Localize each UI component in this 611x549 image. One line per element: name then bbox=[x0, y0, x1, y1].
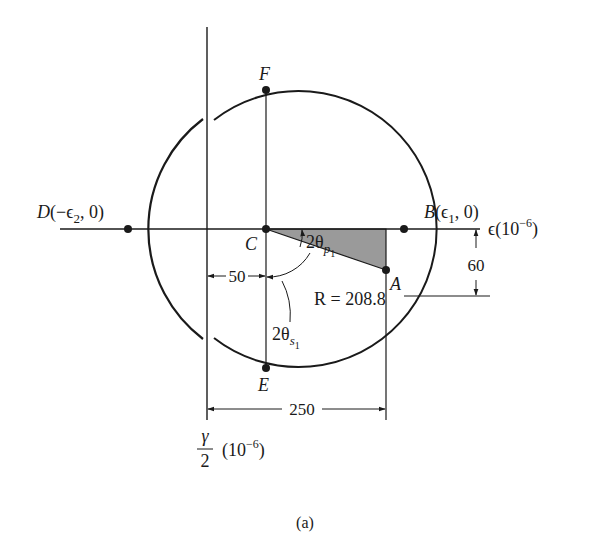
label-C: C bbox=[245, 234, 258, 254]
dim-250-label: 250 bbox=[289, 400, 315, 419]
svg-text:(10−6): (10−6) bbox=[222, 437, 265, 461]
label-A: A bbox=[389, 274, 402, 294]
point-D bbox=[124, 225, 132, 233]
point-E bbox=[262, 364, 270, 372]
epsilon-axis-label: ϵ(10−6) bbox=[488, 216, 538, 240]
dim-50-label: 50 bbox=[229, 267, 246, 286]
label-D: D(−ϵ2, 0) bbox=[36, 202, 104, 226]
gamma-axis-label: γ 2 (10−6) bbox=[197, 426, 265, 471]
label-E: E bbox=[257, 375, 269, 395]
point-F bbox=[262, 86, 270, 94]
point-B bbox=[400, 225, 408, 233]
point-C bbox=[262, 225, 270, 233]
angle-arc-shear bbox=[267, 253, 310, 277]
point-A bbox=[382, 266, 390, 274]
radius-label: R = 208.8 bbox=[314, 289, 386, 309]
angle-arc-shear-tail bbox=[282, 281, 290, 322]
angle-label-shear: 2θs1 bbox=[272, 324, 300, 351]
svg-text:γ: γ bbox=[201, 426, 209, 446]
figure-caption: (a) bbox=[296, 514, 314, 532]
label-B: B(ϵ1, 0) bbox=[424, 202, 479, 226]
svg-text:2: 2 bbox=[201, 451, 210, 471]
dim-60-label: 60 bbox=[468, 256, 485, 275]
mohrs-circle-figure: 50 250 60 C F E A D(−ϵ2, 0) B(ϵ1, 0) ϵ(1… bbox=[0, 0, 611, 549]
label-F: F bbox=[258, 64, 271, 84]
